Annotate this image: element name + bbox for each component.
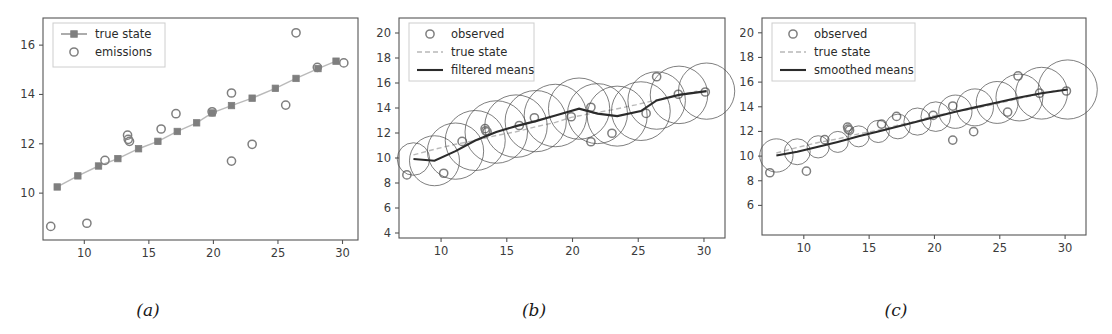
x-tick-label: 30 — [697, 244, 712, 258]
true-state-marker — [333, 58, 339, 64]
true-state-marker — [95, 163, 101, 169]
true-state-marker — [174, 128, 180, 134]
true-state-marker — [115, 155, 121, 161]
true-state-marker — [249, 95, 255, 101]
observation-marker — [282, 101, 290, 109]
observation-marker — [802, 167, 810, 175]
true-state-marker — [54, 184, 60, 190]
observation-marker — [949, 136, 957, 144]
legend-label: true state — [451, 45, 507, 59]
y-tick-label: 16 — [740, 75, 754, 89]
y-tick-label: 14 — [376, 101, 391, 115]
plot-a: 101520253010121416true stateemissions — [0, 0, 372, 300]
legend-label: true state — [95, 27, 151, 41]
true-state-marker — [135, 146, 141, 152]
observation-marker — [608, 129, 616, 137]
x-tick-label: 15 — [862, 241, 877, 255]
observation-marker — [1014, 72, 1022, 80]
y-tick-label: 20 — [740, 26, 754, 40]
observation-marker — [47, 222, 55, 230]
x-tick-label: 25 — [992, 241, 1007, 255]
y-tick-label: 16 — [376, 76, 391, 90]
x-tick-label: 15 — [142, 246, 157, 260]
x-tick-label: 30 — [1058, 241, 1073, 255]
panel-c: 101520253068101214161820observedtrue sta… — [740, 0, 1112, 334]
x-tick-label: 10 — [77, 246, 92, 260]
x-tick-label: 20 — [206, 246, 221, 260]
true-state-marker — [155, 138, 161, 144]
legend-square-icon — [71, 31, 77, 37]
figure-container: 101520253010121416true stateemissions (a… — [0, 0, 1112, 334]
observation-marker — [292, 29, 300, 37]
legend-label: smoothed means — [814, 63, 914, 77]
caption-a: (a) — [0, 300, 334, 320]
x-tick-label: 10 — [434, 244, 449, 258]
legend-label: observed — [451, 27, 504, 41]
legend-label: emissions — [95, 45, 152, 59]
y-tick-label: 10 — [376, 151, 391, 165]
observation-marker — [172, 110, 180, 118]
observation-marker — [970, 128, 978, 136]
legend-label: true state — [814, 45, 870, 59]
observation-marker — [766, 169, 774, 177]
observation-marker — [892, 112, 900, 120]
legend-label: observed — [814, 27, 867, 41]
observation-marker — [1004, 108, 1012, 116]
caption-b: (b) — [348, 300, 720, 320]
x-tick-label: 20 — [927, 241, 942, 255]
panel-b: 1015202530468101214161820observedtrue st… — [370, 0, 742, 334]
y-tick-label: 10 — [740, 149, 754, 163]
observation-marker — [83, 219, 91, 227]
y-tick-label: 16 — [20, 38, 35, 52]
x-tick-label: 20 — [565, 244, 580, 258]
x-tick-label: 10 — [796, 241, 811, 255]
panel-a: 101520253010121416true stateemissions (a… — [0, 0, 372, 334]
y-tick-label: 18 — [740, 50, 754, 64]
legend-label: filtered means — [451, 63, 534, 77]
true-state-marker — [75, 173, 81, 179]
x-tick-label: 25 — [631, 244, 646, 258]
observation-marker — [227, 89, 235, 97]
plot-b: 1015202530468101214161820observedtrue st… — [370, 0, 742, 300]
observation-marker — [440, 169, 448, 177]
y-tick-label: 12 — [376, 126, 391, 140]
y-tick-label: 10 — [20, 186, 35, 200]
caption-c: (c) — [710, 300, 1082, 320]
true-state-marker — [272, 85, 278, 91]
y-tick-label: 12 — [740, 124, 754, 138]
observation-marker — [227, 157, 235, 165]
plot-c: 101520253068101214161820observedtrue sta… — [740, 0, 1112, 300]
y-tick-label: 8 — [384, 176, 391, 190]
y-tick-label: 4 — [384, 226, 391, 240]
y-tick-label: 18 — [376, 51, 391, 65]
x-tick-label: 30 — [335, 246, 350, 260]
observation-marker — [340, 59, 348, 67]
y-tick-label: 14 — [740, 100, 754, 114]
y-tick-label: 6 — [747, 198, 754, 212]
x-tick-label: 15 — [499, 244, 514, 258]
x-tick-label: 25 — [271, 246, 286, 260]
series-line-filtered-means — [413, 91, 706, 161]
y-tick-label: 12 — [20, 137, 35, 151]
y-tick-label: 8 — [747, 174, 754, 188]
true-state-marker — [228, 102, 234, 108]
true-state-marker — [193, 120, 199, 126]
y-tick-label: 20 — [376, 26, 391, 40]
y-tick-label: 6 — [384, 201, 391, 215]
y-tick-label: 14 — [20, 87, 35, 101]
observation-marker — [248, 140, 256, 148]
true-state-marker — [293, 75, 299, 81]
observation-marker — [458, 137, 466, 145]
observation-marker — [157, 125, 165, 133]
observation-marker — [949, 102, 957, 110]
